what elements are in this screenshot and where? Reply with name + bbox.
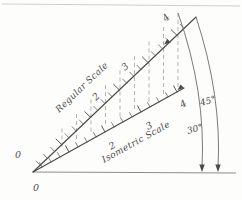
paper-top-border xyxy=(2,4,240,6)
angle-label-30: 30° xyxy=(186,122,204,136)
regular-scale-tick-label-4: 4 xyxy=(159,11,172,24)
arc-arrowheads xyxy=(199,165,220,172)
arc-30-path xyxy=(178,13,203,168)
origin-label-regular: 0 xyxy=(15,149,21,160)
drawing-canvas: 0 0 Regular Scale 2 3 4 Isometric Scale … xyxy=(0,0,242,200)
isometric-scale-tick-label-4: 4 xyxy=(177,97,188,110)
origin-label-isometric: 0 xyxy=(33,182,39,193)
arc-45-path xyxy=(196,17,219,168)
angle-label-45: 45° xyxy=(198,94,217,108)
regular-scale-tick-label-3: 3 xyxy=(119,60,131,72)
arc-crossing-arrowheads xyxy=(164,39,184,90)
angle-arcs xyxy=(178,13,219,168)
horizontal-baseline xyxy=(33,172,236,173)
isometric-scale-drawing: 0 0 Regular Scale 2 3 4 Isometric Scale … xyxy=(0,0,242,200)
